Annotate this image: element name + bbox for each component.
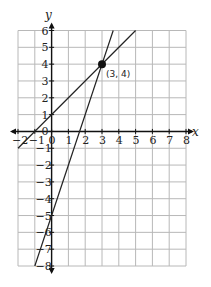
y-tick-label: −2 (36, 159, 52, 172)
y-tick-label: −1 (36, 142, 52, 155)
y-tick-label: 1 (42, 109, 49, 122)
data-line (18, 31, 136, 149)
y-tick-label: 3 (42, 75, 49, 88)
x-tick-label: 1 (65, 134, 72, 147)
x-tick-label: 2 (82, 134, 89, 147)
x-axis-label: x (192, 125, 199, 139)
y-tick-label: 2 (42, 92, 49, 105)
x-tick-label: 6 (149, 134, 156, 147)
arrow-up-icon (49, 23, 55, 29)
y-tick-label: −8 (36, 260, 52, 273)
y-tick-label: 6 (42, 25, 49, 38)
y-tick-label: 5 (42, 41, 49, 54)
y-axis-label: y (44, 8, 52, 22)
y-tick-label: −3 (36, 176, 52, 189)
y-tick-label: −7 (36, 243, 52, 256)
y-tick-label: 4 (42, 58, 49, 71)
coordinate-plane: −2−10123456786543210−1−2−3−4−5−6−7−8 (3,… (0, 0, 211, 287)
intersection-point: (3, 4) (98, 60, 130, 79)
x-tick-label: 4 (116, 134, 123, 147)
x-tick-label: 7 (166, 134, 173, 147)
x-tick-label: 3 (99, 134, 106, 147)
y-tick-label: −4 (36, 193, 52, 206)
y-tick-label: 0 (42, 125, 49, 138)
point-marker-icon (98, 60, 106, 68)
point-label: (3, 4) (106, 69, 130, 79)
x-tick-label: 5 (133, 134, 140, 147)
x-tick-label: 8 (183, 134, 190, 147)
